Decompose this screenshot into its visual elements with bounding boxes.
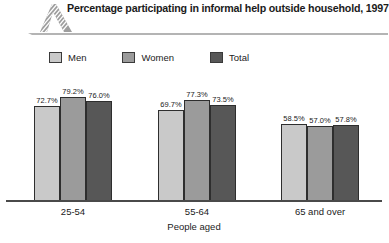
plot-area: 72.7%79.2%76.0%69.7%77.3%73.5%58.5%57.0%… — [0, 70, 388, 201]
bar-value-label-total-2: 57.8% — [327, 115, 365, 124]
legend-item-women: Women — [122, 52, 174, 63]
bar-total-2 — [333, 125, 359, 201]
legend-item-total: Total — [210, 52, 249, 63]
bar-value-label-total-0: 76.0% — [80, 91, 118, 100]
legend-label-men: Men — [68, 53, 86, 63]
bar-total-0 — [86, 101, 112, 201]
bar-men-0 — [34, 106, 60, 201]
legend-label-total: Total — [229, 53, 249, 63]
bar-women-1 — [184, 100, 210, 201]
bar-group-1: 69.7%77.3%73.5% — [158, 70, 236, 201]
header-rule-svg — [28, 33, 388, 35]
x-axis-line — [6, 200, 382, 202]
bar-men-1 — [158, 110, 184, 201]
bar-women-2 — [307, 126, 333, 201]
x-axis-tick-labels: 25-54 55-64 65 and over — [0, 206, 388, 220]
bar-group-2: 58.5%57.0%57.8% — [281, 70, 359, 201]
x-axis-title: People aged — [0, 221, 388, 233]
x-tick-label-1: 55-64 — [158, 206, 236, 218]
legend-label-women: Women — [141, 53, 174, 63]
legend-swatch-total — [210, 52, 223, 63]
bar-total-1 — [210, 105, 236, 201]
legend-swatch-men — [49, 52, 62, 63]
legend-swatch-women — [122, 52, 135, 63]
bar-men-2 — [281, 124, 307, 201]
bar-value-label-total-1: 73.5% — [204, 95, 242, 104]
bar-group-0: 72.7%79.2%76.0% — [34, 70, 112, 201]
bar-women-0 — [60, 97, 86, 201]
page-title: Percentage participating in informal hel… — [67, 2, 375, 15]
x-tick-label-0: 25-54 — [34, 206, 112, 218]
x-tick-label-2: 65 and over — [281, 206, 359, 218]
header-rule-icon — [28, 27, 388, 35]
chart-legend: Men Women Total — [49, 52, 249, 63]
legend-item-men: Men — [49, 52, 86, 63]
